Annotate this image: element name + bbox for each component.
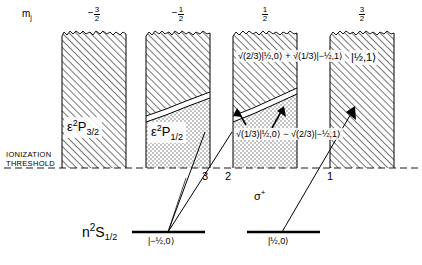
- mj-header-minus-3-2: −32: [64, 6, 124, 23]
- term-symbol-p-one-half: ε2P1/2: [148, 122, 186, 143]
- term-j-1: 1/2: [170, 132, 183, 142]
- ground-term-letter: S: [95, 224, 104, 240]
- ground-ket-plus-half: |½,0⟩: [268, 236, 289, 246]
- mj-header-den-1: 2: [178, 15, 184, 23]
- ionization-threshold-label: IONIZATION THRESHOLD: [6, 150, 55, 168]
- ground-term-j: 1/2: [105, 232, 118, 242]
- transition-label-3: 3: [202, 170, 208, 182]
- ground-ket-minus-half: |−½,0⟩: [148, 236, 175, 246]
- transition-label-2: 2: [225, 170, 231, 182]
- mj-header-plus-1-2: 12: [235, 6, 295, 23]
- mj-header-den-0: 2: [94, 15, 100, 23]
- sigma-symbol: σ: [254, 190, 261, 202]
- mj-axis-label: mj: [22, 8, 32, 21]
- mj-header-den-3: 2: [359, 15, 365, 23]
- ket-superposition-lower: √(1/3)|½,0⟩ − √(2/3)|−½,1⟩: [234, 128, 343, 140]
- diagram-canvas: mj −32 −12 12 32 ε2P3/2 ε2P1/2 √(2/3)|½,…: [0, 0, 422, 265]
- ket-stretched-state: |½,1⟩: [349, 50, 378, 65]
- ket-superposition-upper: √(2/3)|½,0⟩ + √(1/3)|−½,1⟩: [236, 50, 345, 62]
- continuum-band-mj-minus-3-2: [62, 28, 126, 168]
- threshold-line-2: THRESHOLD: [6, 159, 55, 168]
- polarization-label: σ+: [254, 188, 265, 202]
- mj-header-plus-3-2: 32: [332, 6, 392, 23]
- mj-header-den-2: 2: [262, 15, 268, 23]
- threshold-line-1: IONIZATION: [6, 150, 55, 159]
- ground-term-n: n: [82, 224, 90, 240]
- continuum-band-mj-plus-3-2: [330, 28, 394, 168]
- term-j-0: 3/2: [86, 127, 99, 137]
- term-symbol-p-three-halves: ε2P3/2: [64, 117, 102, 138]
- continuum-band-mj-minus-1-2: [146, 28, 210, 168]
- ground-state-term-symbol: n2S1/2: [82, 222, 117, 242]
- transition-label-1: 1: [327, 170, 333, 182]
- mj-subscript: j: [30, 14, 32, 21]
- mj-header-minus-1-2: −12: [148, 6, 208, 23]
- continuum-band-mj-plus-1-2: [233, 28, 297, 168]
- sigma-superscript: +: [261, 188, 266, 197]
